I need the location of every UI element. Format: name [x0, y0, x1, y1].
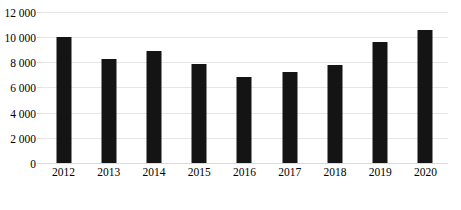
y-tick-label: 12 000: [0, 8, 36, 20]
x-tick-label: 2015: [177, 167, 222, 179]
bar[interactable]: [147, 51, 162, 163]
bar-slot: [222, 12, 267, 163]
bar-slot: [358, 12, 403, 163]
y-tick-label: 4 000: [0, 109, 36, 121]
bar[interactable]: [192, 64, 207, 163]
x-tick-label: 2016: [222, 167, 267, 179]
bar[interactable]: [418, 30, 433, 163]
bars-layer: [41, 12, 448, 163]
bar[interactable]: [237, 77, 252, 163]
y-tick-label: 6 000: [0, 83, 36, 95]
bar-slot: [403, 12, 448, 163]
y-tick-label: 0: [0, 159, 36, 171]
bar-slot: [41, 12, 86, 163]
x-tick-label: 2017: [267, 167, 312, 179]
x-tick-label: 2014: [131, 167, 176, 179]
bar[interactable]: [282, 72, 297, 163]
x-tick-label: 2019: [358, 167, 403, 179]
bar-slot: [177, 12, 222, 163]
x-tick-label: 2012: [41, 167, 86, 179]
x-axis-labels: 201220132014201520162017201820192020: [41, 167, 448, 189]
bar-slot: [312, 12, 357, 163]
bar-chart: 12 000 10 000 8 000 6 000 4 000 2 000 0 …: [0, 0, 461, 210]
y-tick-label: 10 000: [0, 33, 36, 45]
x-tick-label: 2013: [86, 167, 131, 179]
y-tickmark-0: [37, 163, 41, 164]
x-tick-label: 2018: [312, 167, 357, 179]
bar[interactable]: [373, 42, 388, 163]
bar-slot: [86, 12, 131, 163]
y-tick-label: 2 000: [0, 134, 36, 146]
bar[interactable]: [56, 37, 71, 163]
bar[interactable]: [327, 65, 342, 163]
y-tick-label: 8 000: [0, 58, 36, 70]
x-tick-label: 2020: [403, 167, 448, 179]
bar-slot: [131, 12, 176, 163]
bar[interactable]: [101, 59, 116, 163]
y-axis-labels: 12 000 10 000 8 000 6 000 4 000 2 000 0: [0, 0, 36, 210]
bar-slot: [267, 12, 312, 163]
axis-baseline: [41, 163, 448, 164]
